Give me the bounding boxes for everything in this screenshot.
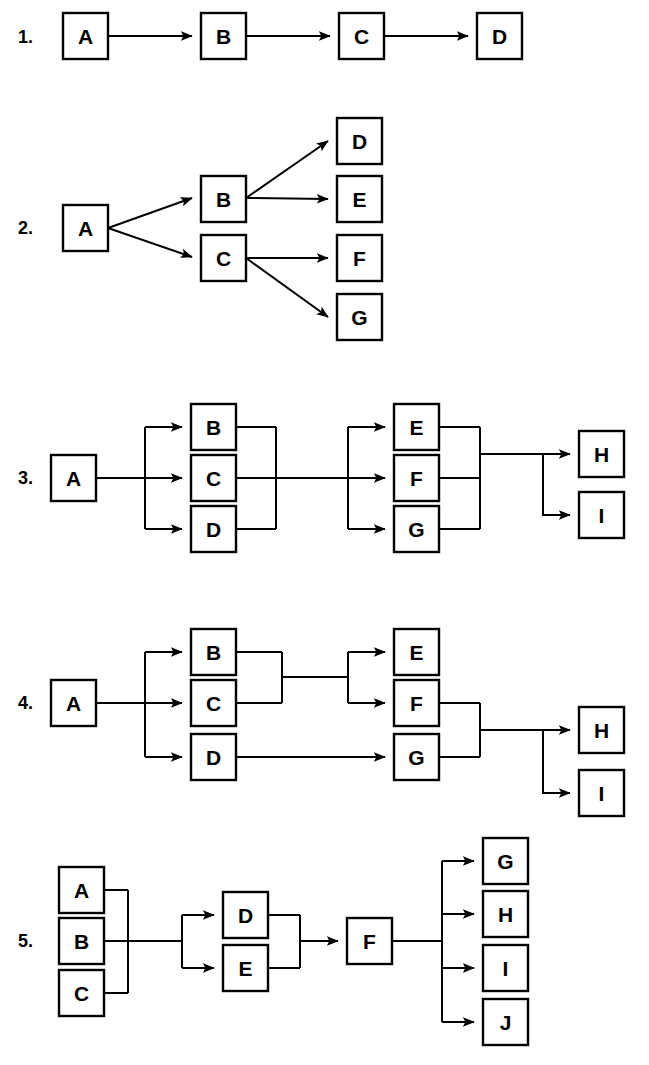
diagram-row-3: 3. A B xyxy=(18,404,624,552)
node-h[interactable]: H xyxy=(579,707,624,753)
diagram-row-4: 4. A B C xyxy=(18,629,624,816)
diagram-canvas: 1. A B C D 2. xyxy=(0,0,649,1065)
node-f[interactable]: F xyxy=(337,235,382,281)
node-b[interactable]: B xyxy=(201,13,246,59)
figure-container: 1. A B C D 2. xyxy=(0,0,649,1065)
edge-c-to-g xyxy=(246,258,328,317)
node-g[interactable]: G xyxy=(394,506,439,552)
node-a[interactable]: A xyxy=(51,680,96,726)
node-d[interactable]: D xyxy=(191,734,236,780)
node-e[interactable]: E xyxy=(394,629,439,675)
node-g[interactable]: G xyxy=(394,734,439,780)
row-number-3: 3. xyxy=(18,468,33,488)
edge-b-to-d xyxy=(246,141,328,198)
node-d[interactable]: D xyxy=(223,892,268,938)
node-g[interactable]: G xyxy=(337,294,382,340)
node-c[interactable]: C xyxy=(201,235,246,281)
node-a[interactable]: A xyxy=(51,455,96,501)
row-number-5: 5. xyxy=(18,931,33,951)
node-a[interactable]: A xyxy=(63,205,108,251)
node-c[interactable]: C xyxy=(191,680,236,726)
node-b[interactable]: B xyxy=(59,918,104,964)
node-i[interactable]: I xyxy=(579,770,624,816)
node-h[interactable]: H xyxy=(483,891,528,937)
edge-b-to-e xyxy=(246,198,328,199)
node-e[interactable]: E xyxy=(394,404,439,450)
row-number-2: 2. xyxy=(18,218,33,238)
node-d[interactable]: D xyxy=(337,118,382,164)
node-e[interactable]: E xyxy=(337,176,382,222)
node-a[interactable]: A xyxy=(59,867,104,913)
node-c[interactable]: C xyxy=(339,13,384,59)
edge-a-to-c xyxy=(108,228,192,257)
diagram-row-1: 1. A B C D xyxy=(18,13,522,59)
node-e[interactable]: E xyxy=(223,945,268,991)
row-number-4: 4. xyxy=(18,693,33,713)
node-b[interactable]: B xyxy=(191,404,236,450)
node-f[interactable]: F xyxy=(394,680,439,726)
edge-join2-to-i xyxy=(543,454,570,515)
node-j[interactable]: J xyxy=(483,999,528,1045)
node-a[interactable]: A xyxy=(63,13,108,59)
node-b[interactable]: B xyxy=(201,176,246,222)
diagram-row-2: 2. A B C D E F xyxy=(18,118,382,340)
node-d[interactable]: D xyxy=(191,506,236,552)
node-b[interactable]: B xyxy=(191,629,236,675)
diagram-row-5: 5. A B C xyxy=(18,838,528,1045)
node-c[interactable]: C xyxy=(59,970,104,1016)
node-g[interactable]: G xyxy=(483,838,528,884)
node-f[interactable]: F xyxy=(347,918,392,964)
row-number-1: 1. xyxy=(18,27,33,47)
node-h[interactable]: H xyxy=(579,431,624,477)
node-f[interactable]: F xyxy=(394,455,439,501)
node-i[interactable]: I xyxy=(579,492,624,538)
node-d[interactable]: D xyxy=(477,13,522,59)
node-c[interactable]: C xyxy=(191,455,236,501)
edge-join2-to-i xyxy=(543,730,570,793)
node-i[interactable]: I xyxy=(483,945,528,991)
edge-a-to-b xyxy=(108,198,192,228)
